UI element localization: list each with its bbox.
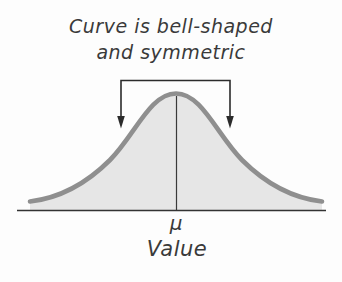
bell-curve-figure: Curve is bell-shaped and symmetric μ Val… xyxy=(0,0,342,282)
value-axis-label: Value xyxy=(0,237,342,261)
mu-label: μ xyxy=(170,211,183,235)
left-down-arrowhead-icon xyxy=(117,116,125,129)
right-down-arrowhead-icon xyxy=(226,116,234,129)
